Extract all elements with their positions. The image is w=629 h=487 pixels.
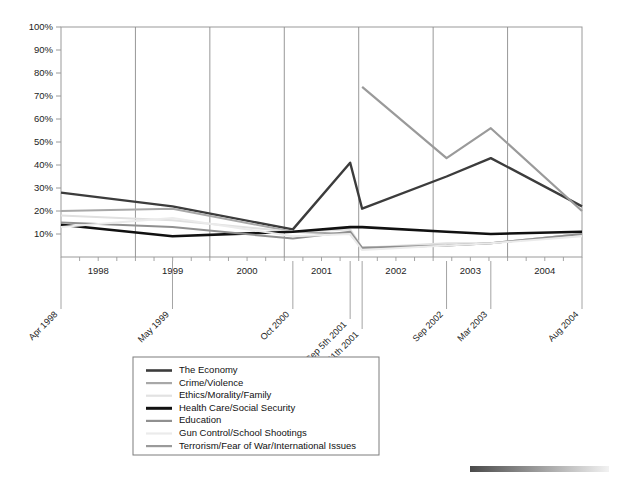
x-axis-date-label: May 1999 (136, 309, 171, 344)
legend-label: Education (179, 414, 221, 425)
legend-label: Gun Control/School Shootings (179, 427, 307, 438)
gradient-bar-fill (470, 466, 609, 472)
legend-label: Terrorism/Fear of War/International Issu… (179, 440, 356, 451)
y-tick-label: 70% (34, 90, 54, 101)
x-axis-date-label: Apr 1998 (27, 309, 60, 342)
x-axis-date-label: Oct 2000 (258, 309, 291, 342)
y-tick-label: 80% (34, 67, 54, 78)
x-axis-year-label: 1998 (88, 265, 109, 276)
x-axis-date-label: Aug 2004 (546, 309, 580, 343)
y-tick-label: 60% (34, 113, 54, 124)
x-axis-year-labels: 1998199920002001200220032004 (88, 265, 556, 276)
x-axis-date-label: Sep 2002 (411, 309, 445, 343)
x-axis-date-label: Mar 2003 (455, 309, 489, 343)
y-axis-ticks: 10%20%30%40%50%60%70%80%90%100% (29, 21, 61, 239)
y-tick-label: 40% (34, 159, 54, 170)
x-axis-year-label: 2003 (460, 265, 481, 276)
series-lines (61, 87, 582, 250)
x-axis-year-label: 2000 (237, 265, 258, 276)
gradient-bar (470, 466, 609, 472)
y-tick-label: 100% (29, 21, 54, 32)
chart-container: 10%20%30%40%50%60%70%80%90%100% 19981999… (0, 0, 629, 487)
y-tick-label: 90% (34, 44, 54, 55)
y-tick-label: 10% (34, 228, 54, 239)
x-axis-ticks (61, 257, 582, 261)
x-axis-year-label: 2002 (385, 265, 406, 276)
legend-label: Health Care/Social Security (179, 402, 295, 413)
plot-frame (61, 27, 582, 257)
legend-label: Crime/Violence (179, 377, 243, 388)
x-axis-year-label: 2004 (534, 265, 555, 276)
chart-legend: The EconomyCrime/ViolenceEthics/Morality… (133, 357, 379, 455)
legend-label: Ethics/Morality/Family (179, 389, 272, 400)
y-tick-label: 20% (34, 205, 54, 216)
x-axis-year-label: 2001 (311, 265, 332, 276)
series-line (362, 87, 582, 211)
y-tick-label: 50% (34, 136, 54, 147)
y-tick-label: 30% (34, 182, 54, 193)
line-chart: 10%20%30%40%50%60%70%80%90%100% 19981999… (0, 0, 629, 487)
legend-label: The Economy (179, 364, 238, 375)
